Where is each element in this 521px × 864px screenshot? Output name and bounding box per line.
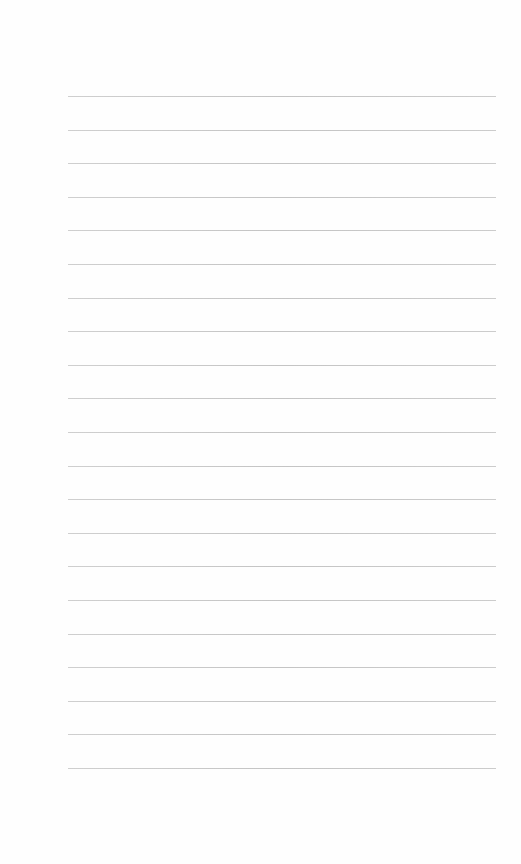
ruled-line	[68, 331, 496, 332]
ruled-line	[68, 163, 496, 164]
ruled-line	[68, 533, 496, 534]
ruled-line	[68, 466, 496, 467]
ruled-line	[68, 130, 496, 131]
ruled-line	[68, 566, 496, 567]
ruled-line	[68, 298, 496, 299]
ruled-line	[68, 634, 496, 635]
ruled-line	[68, 264, 496, 265]
ruled-line	[68, 398, 496, 399]
ruled-line	[68, 600, 496, 601]
ruled-line	[68, 197, 496, 198]
ruled-line	[68, 768, 496, 769]
ruled-line	[68, 734, 496, 735]
lined-page	[0, 0, 521, 864]
ruled-line	[68, 365, 496, 366]
ruled-line	[68, 432, 496, 433]
ruled-line	[68, 96, 496, 97]
ruled-line	[68, 230, 496, 231]
ruled-line	[68, 701, 496, 702]
ruled-line	[68, 499, 496, 500]
ruled-line	[68, 667, 496, 668]
